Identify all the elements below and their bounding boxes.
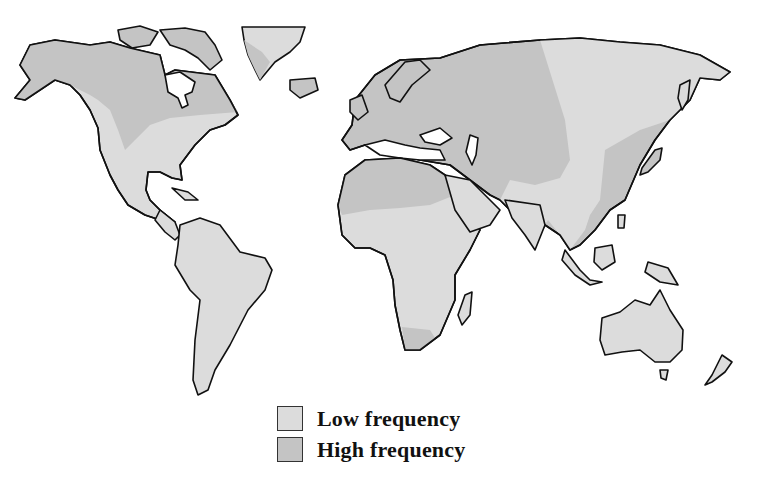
new-zealand xyxy=(705,355,732,385)
legend-swatch-low xyxy=(277,406,303,431)
world-map xyxy=(0,0,760,400)
north-america xyxy=(15,26,318,240)
legend: Low frequency High frequency xyxy=(277,403,465,465)
legend-item-high: High frequency xyxy=(277,434,465,465)
legend-label-low: Low frequency xyxy=(317,406,460,432)
legend-swatch-high xyxy=(277,437,303,462)
south-america xyxy=(175,218,272,395)
legend-label-high: High frequency xyxy=(317,437,465,463)
australia xyxy=(600,290,683,380)
caribbean-islands xyxy=(172,188,198,200)
legend-item-low: Low frequency xyxy=(277,403,465,434)
